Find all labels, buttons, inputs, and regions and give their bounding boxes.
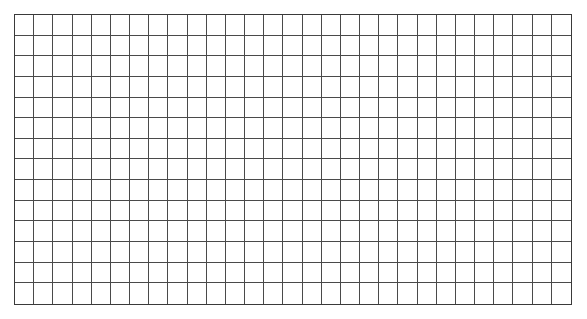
grid-cell xyxy=(418,221,437,242)
grid-cell xyxy=(418,56,437,77)
grid-cell xyxy=(533,221,552,242)
grid-cell xyxy=(475,242,494,263)
grid-cell xyxy=(226,139,245,160)
grid-cell xyxy=(360,98,379,119)
grid-cell xyxy=(303,263,322,284)
grid-cell xyxy=(322,283,341,304)
grid-cell xyxy=(494,36,513,57)
grid-cell xyxy=(418,36,437,57)
grid-cell xyxy=(513,118,532,139)
grid-cell xyxy=(513,180,532,201)
grid-cell xyxy=(73,36,92,57)
grid-cell xyxy=(207,283,226,304)
grid-cell xyxy=(92,221,111,242)
grid-cell xyxy=(303,36,322,57)
grid-cell xyxy=(513,242,532,263)
grid-cell xyxy=(303,221,322,242)
grid-cell xyxy=(130,15,149,36)
grid-cell xyxy=(130,263,149,284)
grid-cell xyxy=(92,263,111,284)
grid-cell xyxy=(73,77,92,98)
grid-cell xyxy=(188,221,207,242)
grid-cell xyxy=(418,263,437,284)
grid-cell xyxy=(456,36,475,57)
grid-cell xyxy=(245,242,264,263)
grid-cell xyxy=(513,201,532,222)
grid-cell xyxy=(73,98,92,119)
grid-cell xyxy=(92,15,111,36)
grid-cell xyxy=(226,98,245,119)
grid-cell xyxy=(322,56,341,77)
grid-cell xyxy=(379,221,398,242)
grid-cell xyxy=(168,139,187,160)
grid-cell xyxy=(533,180,552,201)
grid-cell xyxy=(226,56,245,77)
grid-cell xyxy=(34,283,53,304)
grid-cell xyxy=(341,56,360,77)
grid-cell xyxy=(303,180,322,201)
grid-cell xyxy=(494,15,513,36)
grid-cell xyxy=(168,56,187,77)
grid-cell xyxy=(360,221,379,242)
grid-cell xyxy=(494,201,513,222)
grid-cell xyxy=(456,56,475,77)
grid-cell xyxy=(398,77,417,98)
grid-cell xyxy=(341,98,360,119)
grid-cell xyxy=(379,180,398,201)
grid-cell xyxy=(53,56,72,77)
grid-cell xyxy=(533,98,552,119)
grid-cell xyxy=(283,139,302,160)
grid-cell xyxy=(398,283,417,304)
grid-cell xyxy=(456,77,475,98)
grid-cell xyxy=(207,36,226,57)
grid-cell xyxy=(475,180,494,201)
grid-cell xyxy=(53,159,72,180)
grid-cell xyxy=(475,36,494,57)
grid-cell xyxy=(245,263,264,284)
grid-cell xyxy=(303,15,322,36)
grid-cell xyxy=(303,56,322,77)
grid-cell xyxy=(533,283,552,304)
grid-cell xyxy=(149,263,168,284)
grid-cell xyxy=(264,283,283,304)
grid-cell xyxy=(34,242,53,263)
grid-cell xyxy=(168,221,187,242)
grid-cell xyxy=(456,15,475,36)
grid-cell xyxy=(34,201,53,222)
grid-cell xyxy=(533,159,552,180)
grid-cell xyxy=(130,221,149,242)
grid-cell xyxy=(245,180,264,201)
grid-cell xyxy=(456,263,475,284)
grid-cell xyxy=(207,98,226,119)
grid-cell xyxy=(111,77,130,98)
grid-cell xyxy=(303,139,322,160)
grid-cell xyxy=(398,159,417,180)
grid-cell xyxy=(552,242,571,263)
grid-cell xyxy=(226,283,245,304)
grid-cell xyxy=(341,180,360,201)
grid-cell xyxy=(245,56,264,77)
grid-cell xyxy=(398,98,417,119)
grid-cell xyxy=(73,118,92,139)
grid-cell xyxy=(283,56,302,77)
grid-cell xyxy=(418,77,437,98)
grid-cell xyxy=(34,36,53,57)
grid-cell xyxy=(73,263,92,284)
grid-cell xyxy=(552,118,571,139)
grid-cell xyxy=(379,139,398,160)
grid-cell xyxy=(207,15,226,36)
grid-cell xyxy=(494,118,513,139)
grid-cell xyxy=(15,159,34,180)
grid-cell xyxy=(34,221,53,242)
grid-cell xyxy=(92,159,111,180)
grid-cell xyxy=(53,221,72,242)
grid-cell xyxy=(360,180,379,201)
grid-cell xyxy=(418,15,437,36)
grid-cell xyxy=(398,263,417,284)
grid-cell xyxy=(475,221,494,242)
grid-cell xyxy=(15,180,34,201)
grid-cell xyxy=(552,159,571,180)
grid-cell xyxy=(111,201,130,222)
grid-cell xyxy=(149,221,168,242)
grid-cell xyxy=(111,15,130,36)
